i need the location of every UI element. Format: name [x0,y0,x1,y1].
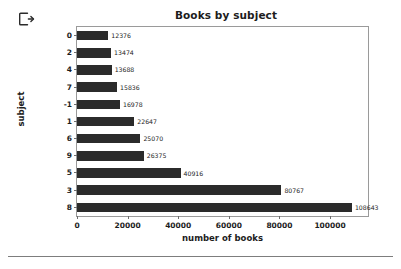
x-axis-tick-mark [330,216,331,219]
x-axis-tick-label: 20000 [115,221,141,230]
bar [77,48,111,58]
y-axis-tick-label: 1 [37,113,77,130]
bar-value-label: 80767 [284,187,304,194]
plot-area: 012376213474413688715836-116978122647625… [76,26,369,217]
y-axis-tick-label: 0 [37,27,77,44]
bar-value-label: 12376 [111,32,131,39]
y-axis-label: subject [16,74,26,144]
bar-row: 012376 [77,27,131,44]
bar-row: 380767 [77,182,304,199]
x-axis-tick-label: 0 [74,221,79,230]
bar [77,117,134,127]
y-axis-tick-label: 4 [37,61,77,78]
x-axis-tick-label: 60000 [216,221,242,230]
x-axis-label: number of books [76,233,369,243]
bar [77,168,181,178]
x-axis-tick-label: 100000 [314,221,345,230]
bar [77,82,117,92]
y-axis-tick-label: 9 [37,147,77,164]
bottom-divider [8,256,393,257]
bar-row: 625070 [77,130,163,147]
bar-value-label: 13474 [114,49,134,56]
bar [77,203,352,213]
x-axis-tick-mark [279,216,280,219]
x-axis-tick-label: 80000 [266,221,292,230]
bar-value-label: 13688 [115,66,135,73]
bar-row: 122647 [77,113,157,130]
bar-value-label: 22647 [137,118,157,125]
bar-row: 213474 [77,44,134,61]
x-axis-tick-mark [128,216,129,219]
bar [77,65,112,75]
bar-value-label: 40916 [184,170,204,177]
bar [77,31,108,41]
chart-figure: Books by subject 01237621347441368871583… [0,0,401,247]
x-axis-tick-label: 40000 [165,221,191,230]
y-axis-tick-label: 5 [37,164,77,181]
bar-row: -116978 [77,96,143,113]
y-axis-tick-label: -1 [37,96,77,113]
chart-title: Books by subject [76,9,376,21]
y-axis-tick-label: 6 [37,130,77,147]
bar-row: 715836 [77,79,140,96]
y-axis-tick-label: 3 [37,182,77,199]
y-axis-tick-label: 2 [37,44,77,61]
bar-value-label: 108643 [355,204,379,211]
bar-value-label: 16978 [123,101,143,108]
bar-row: 540916 [77,164,203,181]
x-axis-tick-mark [229,216,230,219]
bar-row: 8108643 [77,199,379,216]
bar-row: 926375 [77,147,166,164]
bar-series: 012376213474413688715836-116978122647625… [77,27,368,216]
bar-value-label: 25070 [143,135,163,142]
bar [77,134,140,144]
bar-value-label: 15836 [120,84,140,91]
bar [77,151,144,161]
y-axis-tick-label: 8 [37,199,77,216]
bar [77,185,281,195]
x-axis-tick-mark [178,216,179,219]
bar-value-label: 26375 [147,152,167,159]
x-axis-tick-mark [77,216,78,219]
y-axis-tick-label: 7 [37,79,77,96]
bar-row: 413688 [77,61,134,78]
bar [77,100,120,110]
